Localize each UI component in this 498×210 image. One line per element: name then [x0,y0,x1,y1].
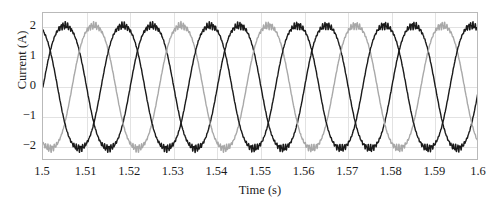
x-tick-label: 1.56 [293,165,315,178]
y-tick-label: 1 [30,49,36,62]
x-tick-label: 1.5 [34,165,50,178]
plot-svg [43,13,478,160]
figure-canvas: 210−1−2 1.51.511.521.531.541.551.561.571… [0,0,498,210]
x-tick-label: 1.53 [162,165,184,178]
plot-area [42,12,478,160]
x-tick-label: 1.52 [118,165,140,178]
x-tick-label: 1.6 [470,165,486,178]
y-tick-label: 2 [30,19,36,32]
x-axis-label: Time (s) [42,184,478,197]
x-tick-label: 1.57 [336,165,358,178]
x-tick-label: 1.55 [249,165,271,178]
waveform-traces [43,22,478,153]
y-axis-label: Current (A) [14,0,30,134]
x-tick-label: 1.54 [205,165,227,178]
x-tick-label: 1.58 [380,165,402,178]
y-tick-label: −2 [23,139,36,152]
x-tick-label: 1.59 [423,165,445,178]
x-tick-label: 1.51 [75,165,97,178]
y-tick-label: 0 [30,79,36,92]
